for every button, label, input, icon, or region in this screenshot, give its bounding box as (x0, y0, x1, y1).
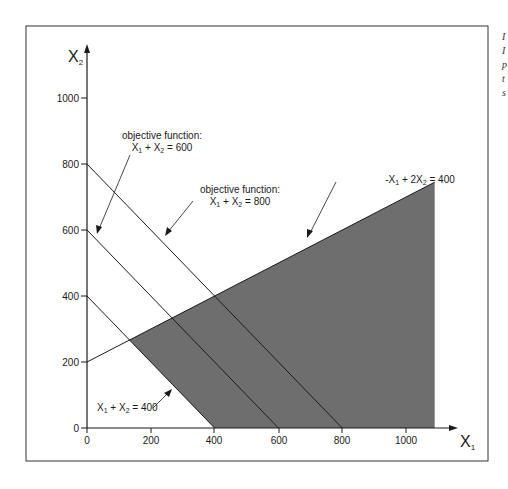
x-tick-0: 0 (84, 435, 90, 446)
side-text-fragment: s (502, 86, 506, 100)
y-tick-1000: 1000 (57, 93, 80, 104)
y-tick-0: 0 (73, 423, 79, 434)
side-text-fragment: t (502, 72, 505, 86)
y-tick-800: 800 (62, 159, 79, 170)
y-tick-400: 400 (62, 291, 79, 302)
side-text-fragment: p (502, 58, 507, 72)
lp-chart: 0 200 400 600 800 1000 0 200 400 600 800… (0, 0, 508, 489)
y-tick-200: 200 (62, 357, 79, 368)
x-tick-800: 800 (334, 435, 351, 446)
y-tick-600: 600 (62, 225, 79, 236)
x-tick-200: 200 (143, 435, 160, 446)
x-tick-400: 400 (206, 435, 223, 446)
x-tick-600: 600 (271, 435, 288, 446)
svg-text:objective function:: objective function: (200, 184, 280, 195)
side-text-fragment: I (502, 30, 505, 44)
svg-text:objective function:: objective function: (122, 130, 202, 141)
side-text-fragment: I (502, 44, 505, 58)
x-tick-1000: 1000 (395, 435, 418, 446)
